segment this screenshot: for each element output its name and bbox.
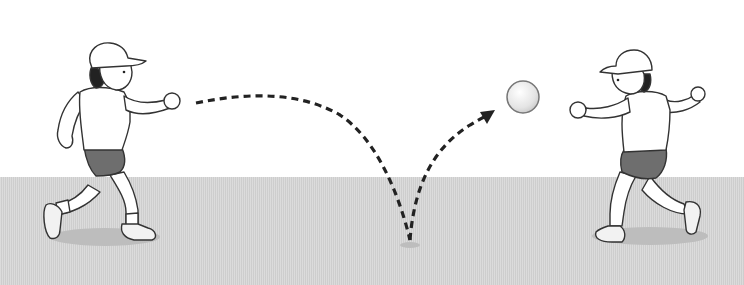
left-child-shirt [79,88,130,151]
ball-trajectory [196,96,490,240]
right-child-shorts [621,148,667,179]
right-child-eye [617,79,620,82]
left-child-fist [164,93,180,109]
right-child-front-arm [584,98,630,118]
left-child-cap [90,43,146,68]
left-child-shorts [84,147,125,176]
right-child-back-shoe [684,202,700,234]
left-child-back-shoe [44,204,62,239]
right-child-cap [600,50,652,74]
left-child-front-arm [124,96,170,114]
illustration-scene [0,0,744,285]
right-child-fist [570,102,586,118]
bounce-mark [400,242,420,248]
right-child-back-leg [642,176,688,214]
right-child-front-shoe [596,226,625,242]
right-child-shirt [622,92,670,153]
left-child [44,43,180,240]
ball [507,81,539,113]
left-child-front-shoe [122,224,156,240]
right-child-front-leg [610,172,636,226]
scene-art [0,0,744,285]
right-child [570,50,705,242]
left-child-eye [123,71,126,74]
right-child-back-fist [691,87,705,101]
